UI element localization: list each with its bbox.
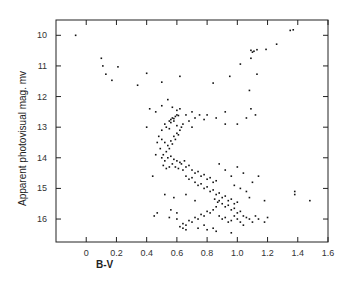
- star-point: [255, 215, 257, 217]
- star-point: [173, 197, 175, 199]
- y-axis-title: Apparent photovisual mag. mv: [17, 71, 28, 206]
- star-point: [167, 157, 169, 159]
- y-tick-label: 11: [38, 61, 47, 71]
- star-point: [252, 221, 254, 223]
- star-point: [156, 142, 158, 144]
- star-point: [169, 120, 171, 122]
- star-point: [294, 194, 296, 196]
- star-point: [250, 108, 252, 110]
- star-point: [230, 175, 232, 177]
- star-point: [200, 183, 202, 185]
- star-point: [155, 111, 157, 113]
- star-point: [258, 175, 260, 177]
- x-tick-label: 0.8: [201, 248, 214, 258]
- star-point: [240, 211, 242, 213]
- star-point: [162, 165, 164, 167]
- star-point: [169, 217, 171, 219]
- star-point: [176, 125, 178, 127]
- star-point: [249, 197, 251, 199]
- star-point: [234, 208, 236, 210]
- star-point: [179, 129, 181, 131]
- star-point: [230, 209, 232, 211]
- x-tick-label: 0.2: [110, 248, 123, 258]
- star-point: [161, 105, 163, 107]
- star-point: [75, 35, 77, 37]
- star-point: [166, 151, 168, 153]
- y-tick-label: 16: [37, 214, 47, 224]
- star-point: [178, 115, 180, 117]
- star-point: [197, 218, 199, 220]
- star-point: [153, 215, 155, 217]
- star-point: [218, 215, 220, 217]
- star-point: [227, 221, 229, 223]
- star-point: [243, 172, 245, 174]
- star-point: [224, 123, 226, 125]
- star-point: [173, 120, 175, 122]
- star-point: [200, 214, 202, 216]
- star-point: [240, 221, 242, 223]
- star-point: [246, 217, 248, 219]
- star-point: [166, 168, 168, 170]
- star-point: [178, 134, 180, 136]
- star-point: [188, 120, 190, 122]
- star-point: [224, 195, 226, 197]
- star-point: [212, 181, 214, 183]
- star-point: [212, 189, 214, 191]
- star-point: [179, 162, 181, 164]
- x-tick-label: 1.2: [261, 248, 274, 258]
- star-point: [256, 49, 258, 51]
- star-point: [215, 117, 217, 119]
- star-point: [237, 212, 239, 214]
- star-point: [172, 163, 174, 165]
- star-point: [176, 132, 178, 134]
- star-point: [224, 169, 226, 171]
- star-point: [237, 166, 239, 168]
- star-point: [170, 209, 172, 211]
- plot-frame: [56, 20, 328, 242]
- color-magnitude-diagram: 00.20.40.60.81.01.21.41.6 10111213141516…: [0, 0, 347, 283]
- y-tick-label: 15: [37, 183, 47, 193]
- star-point: [221, 218, 223, 220]
- star-point: [194, 217, 196, 219]
- star-point: [206, 229, 208, 231]
- star-point: [169, 148, 171, 150]
- star-point: [217, 201, 219, 203]
- star-point: [172, 106, 174, 108]
- star-point: [224, 206, 226, 208]
- x-axis-title: B-V: [96, 259, 114, 270]
- star-point: [206, 186, 208, 188]
- star-point: [169, 166, 171, 168]
- star-point: [188, 220, 190, 222]
- star-point: [234, 215, 236, 217]
- star-point: [252, 51, 254, 53]
- star-point: [161, 129, 163, 131]
- star-point: [182, 227, 184, 229]
- star-point: [212, 209, 214, 211]
- star-point: [197, 185, 199, 187]
- star-point: [215, 206, 217, 208]
- star-point: [206, 211, 208, 213]
- star-point: [229, 76, 231, 78]
- x-tick-label: 0: [84, 248, 89, 258]
- star-point: [164, 194, 166, 196]
- star-point: [172, 143, 174, 145]
- star-point: [252, 181, 254, 183]
- star-point: [197, 227, 199, 229]
- star-point: [215, 230, 217, 232]
- star-point: [176, 160, 178, 162]
- star-point: [264, 221, 266, 223]
- star-point: [161, 157, 163, 159]
- star-point: [176, 114, 178, 116]
- star-point: [176, 218, 178, 220]
- star-point: [249, 90, 251, 92]
- star-point: [234, 203, 236, 205]
- star-point: [194, 181, 196, 183]
- star-point: [246, 117, 248, 119]
- star-point: [221, 197, 223, 199]
- star-point: [185, 166, 187, 168]
- x-tick-label: 0.6: [171, 248, 184, 258]
- star-point: [246, 191, 248, 193]
- star-point: [184, 160, 186, 162]
- star-point: [265, 49, 267, 51]
- star-point: [175, 116, 177, 118]
